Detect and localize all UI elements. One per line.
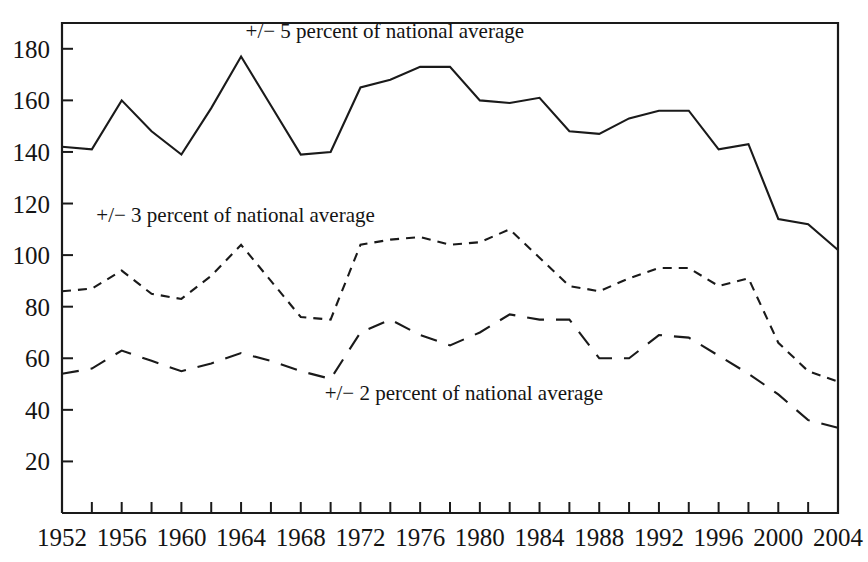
y-tick-label: 60 [25, 345, 50, 372]
x-tick-label: 2004 [813, 524, 864, 551]
series-annotations: +/− 5 percent of national average+/− 3 p… [96, 19, 603, 404]
plot-frame [62, 23, 838, 513]
y-axis-tick-labels: 20406080100120140160180 [13, 36, 51, 476]
x-axis-ticks [62, 502, 838, 513]
x-tick-label: 1984 [515, 524, 566, 551]
x-tick-label: 1972 [335, 524, 385, 551]
series-annotation-2: +/− 3 percent of national average [96, 203, 374, 227]
x-tick-label: 2000 [753, 524, 803, 551]
y-tick-label: 180 [13, 36, 51, 63]
y-tick-label: 80 [25, 294, 50, 321]
y-tick-label: 120 [13, 191, 51, 218]
y-tick-label: 40 [25, 397, 50, 424]
x-tick-label: 1996 [694, 524, 744, 551]
x-tick-label: 1964 [216, 524, 267, 551]
y-tick-label: 100 [13, 242, 51, 269]
axis-frame [62, 23, 838, 513]
series-line-2 [62, 229, 838, 381]
x-axis-tick-labels: 1952195619601964196819721976198019841988… [37, 524, 864, 551]
series-line-3 [62, 314, 838, 427]
line-chart: 20406080100120140160180 1952195619601964… [0, 0, 868, 562]
y-tick-label: 20 [25, 448, 50, 475]
x-tick-label: 1980 [455, 524, 505, 551]
y-axis-ticks [62, 49, 73, 462]
series-lines [62, 57, 838, 428]
x-tick-label: 1956 [97, 524, 147, 551]
x-tick-label: 1960 [156, 524, 206, 551]
x-tick-label: 1992 [634, 524, 684, 551]
x-tick-label: 1952 [37, 524, 87, 551]
y-tick-label: 160 [13, 87, 51, 114]
x-tick-label: 1968 [276, 524, 326, 551]
chart-container: 20406080100120140160180 1952195619601964… [0, 0, 868, 562]
series-annotation-3: +/− 2 percent of national average [325, 381, 603, 405]
x-tick-label: 1976 [395, 524, 445, 551]
y-tick-label: 140 [13, 139, 51, 166]
series-annotation-1: +/− 5 percent of national average [246, 19, 524, 43]
x-tick-label: 1988 [574, 524, 624, 551]
